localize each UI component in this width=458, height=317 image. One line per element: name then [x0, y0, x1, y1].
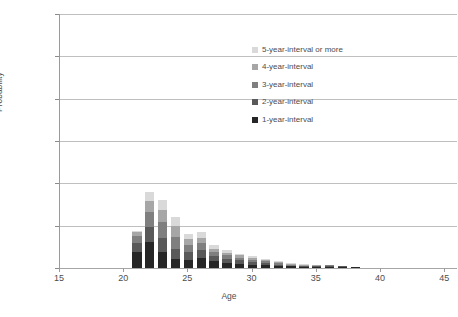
bar-segment — [299, 265, 308, 266]
x-tick-mark — [187, 268, 188, 272]
legend-item: 5-year-interval or more — [252, 41, 343, 59]
bar-segment — [286, 263, 295, 264]
legend-swatch-icon — [252, 82, 258, 88]
bar-segment — [261, 263, 270, 266]
bar-segment — [274, 263, 283, 265]
bar-age-33 — [286, 263, 295, 268]
bar-segment — [235, 264, 244, 268]
bar-segment — [145, 192, 154, 201]
bar-segment — [197, 243, 206, 250]
bar-segment — [286, 265, 295, 266]
legend-swatch-icon — [252, 117, 258, 123]
bar-segment — [158, 200, 167, 209]
legend-item: 3-year-interval — [252, 76, 343, 94]
x-tick-label: 45 — [429, 274, 458, 283]
bar-age-32 — [274, 261, 283, 268]
x-tick-mark — [380, 268, 381, 272]
bar-segment — [235, 260, 244, 263]
bar-age-22 — [145, 192, 154, 268]
bar-age-37 — [338, 266, 347, 268]
bar-segment — [235, 255, 244, 258]
bar-segment — [274, 265, 283, 267]
bar-segment — [286, 264, 295, 265]
x-tick-mark — [252, 268, 253, 272]
bar-segment — [209, 256, 218, 261]
bar-segment — [209, 252, 218, 256]
bar-segment — [171, 249, 180, 259]
legend-label: 3-year-interval — [262, 81, 313, 89]
bar-segment — [248, 260, 257, 263]
bar-segment — [299, 267, 308, 268]
bar-segment — [184, 234, 193, 239]
bar-segment — [197, 258, 206, 268]
bar-segment — [235, 258, 244, 261]
bar-segment — [132, 236, 141, 243]
bar-segment — [158, 222, 167, 237]
x-tick-label: 40 — [365, 274, 395, 283]
bar-segment — [222, 259, 231, 263]
legend-label: 5-year-interval or more — [262, 46, 343, 54]
x-tick-label: 30 — [237, 274, 267, 283]
probability-by-age-chart: Probability 0.000.050.100.150.200.250.30… — [0, 0, 458, 317]
bar-segment — [312, 265, 321, 266]
bar-segment — [248, 258, 257, 260]
bar-segment — [325, 265, 334, 266]
bar-segment — [274, 266, 283, 268]
bar-segment — [209, 245, 218, 248]
bar-segment — [274, 262, 283, 263]
x-tick-label: 20 — [108, 274, 138, 283]
bar-age-23 — [158, 200, 167, 268]
x-tick-mark — [123, 268, 124, 272]
y-axis-title: Probability — [0, 72, 4, 112]
bar-age-28 — [222, 250, 231, 268]
bar-segment — [145, 242, 154, 268]
x-tick-mark — [59, 268, 60, 272]
bar-segment — [197, 238, 206, 244]
x-tick-mark — [444, 268, 445, 272]
chart-legend: 5-year-interval or more4-year-interval3-… — [252, 41, 343, 129]
bar-segment — [184, 260, 193, 268]
bar-segment — [235, 254, 244, 256]
bar-segment — [299, 264, 308, 265]
bar-segment — [261, 261, 270, 263]
bar-segment — [145, 201, 154, 212]
bar-segment — [171, 217, 180, 225]
bar-segment — [209, 249, 218, 252]
bar-segment — [286, 266, 295, 268]
bar-age-25 — [184, 234, 193, 268]
bar-age-24 — [171, 217, 180, 268]
x-tick-label: 35 — [301, 274, 331, 283]
bar-age-30 — [248, 256, 257, 268]
bar-segment — [184, 239, 193, 245]
bar-segment — [132, 252, 141, 268]
bar-age-31 — [261, 259, 270, 268]
bar-segment — [312, 265, 321, 266]
x-tick-label: 25 — [172, 274, 202, 283]
bar-segment — [261, 259, 270, 260]
bar-segment — [286, 265, 295, 266]
legend-swatch-icon — [252, 47, 258, 53]
bar-segment — [132, 231, 141, 233]
bar-segment — [132, 243, 141, 252]
legend-swatch-icon — [252, 99, 258, 105]
bar-age-38 — [351, 267, 360, 268]
bar-segment — [222, 263, 231, 268]
bar-segment — [261, 265, 270, 268]
legend-item: 1-year-interval — [252, 111, 343, 129]
bar-segment — [132, 232, 141, 235]
x-axis-title: Age — [0, 291, 458, 301]
bar-segment — [184, 252, 193, 260]
bar-segment — [158, 252, 167, 268]
bar-segment — [145, 227, 154, 242]
bar-segment — [158, 210, 167, 223]
bar-segment — [209, 261, 218, 268]
x-tick-mark — [316, 268, 317, 272]
bar-age-29 — [235, 254, 244, 268]
bar-segment — [197, 250, 206, 258]
bar-age-27 — [209, 245, 218, 268]
bar-segment — [248, 262, 257, 265]
bar-segment — [351, 267, 360, 268]
legend-swatch-icon — [252, 64, 258, 70]
bar-age-36 — [325, 265, 334, 268]
bar-segment — [197, 232, 206, 237]
